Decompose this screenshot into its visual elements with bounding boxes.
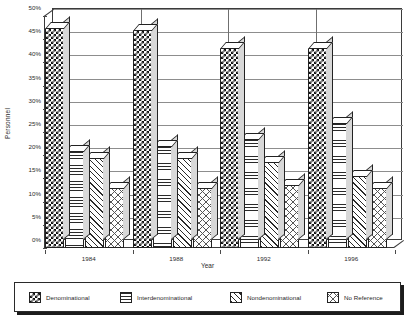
legend-swatch [29,292,41,303]
legend-swatch [230,292,242,303]
y-tick-label: 0% [32,237,41,243]
x-tick-label: 1984 [69,255,109,262]
y-tick-label: 50% [29,5,41,11]
bar-side-face [238,37,245,240]
y-axis-title: Personnel [4,94,11,154]
bar-side-face [346,111,353,240]
x-tick-mark [45,250,46,254]
bar-side-face [258,127,265,240]
bar-side-face [191,146,198,240]
bar [220,48,239,248]
y-tick-label: 10% [29,191,41,197]
bar-group [45,16,133,248]
x-axis-title: Year [0,262,415,269]
legend-item[interactable]: Nondenominational [230,292,301,303]
y-tick-label: 30% [29,98,41,104]
bar-side-face [278,150,285,240]
legend-label: Nondenominational [247,294,301,301]
bars-layer [45,16,395,248]
bar-side-face [63,16,70,240]
legend-item[interactable]: No Reference [327,292,383,303]
bar-side-face [326,37,333,240]
bar-side-face [151,18,158,240]
bar-chart: Personnel 0%5%10%15%20%25%30%35%40%45%50… [0,0,415,272]
x-tick-mark [308,250,309,254]
legend-swatch [327,292,339,303]
y-tick-label: 45% [29,28,41,34]
x-tick-label: 1992 [244,255,284,262]
legend-label: Interdenominational [137,294,192,301]
legend-item[interactable]: Denominational [29,292,90,303]
x-tick-label: 1996 [331,255,371,262]
legend-label: Denominational [46,294,90,301]
legend-label: No Reference [344,294,383,301]
x-tick-mark [220,250,221,254]
legend-swatch [120,292,132,303]
y-tick-label: 15% [29,167,41,173]
bar-group [308,16,396,248]
bar-side-face [103,146,110,240]
bar-side-face [83,139,90,240]
bar-group [133,16,221,248]
x-tick-mark [395,250,396,254]
y-axis-ticks: 0%5%10%15%20%25%30%35%40%45%50% [18,8,44,240]
y-tick-label: 35% [29,75,41,81]
bar-group [220,16,308,248]
chart-legend: DenominationalInterdenominationalNondeno… [14,282,401,312]
bar [308,48,327,248]
bar [45,28,64,248]
bar [133,30,152,248]
y-tick-label: 40% [29,51,41,57]
y-tick-label: 5% [32,214,41,220]
y-tick-mark [43,248,47,249]
legend-item[interactable]: Interdenominational [120,292,192,303]
bar-side-face [171,134,178,240]
x-tick-label: 1988 [156,255,196,262]
y-tick-label: 25% [29,121,41,127]
y-tick-label: 20% [29,144,41,150]
x-tick-mark [133,250,134,254]
